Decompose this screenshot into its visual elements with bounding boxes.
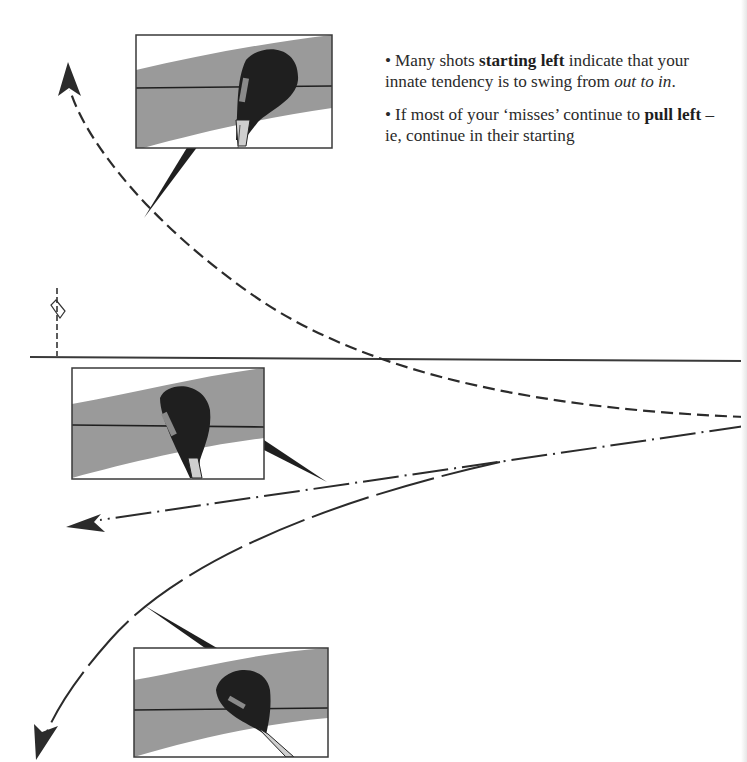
book-page: •Many shots starting left indicate that … [0,0,747,762]
pointer-wedge-middle [264,440,327,482]
paragraph-starting-left: •Many shots starting left indicate that … [385,50,715,92]
clubface-inset-bottom [134,648,328,757]
arrowhead-up-icon [58,62,81,96]
explanation-text: •Many shots starting left indicate that … [385,50,715,158]
emphasis-pull-left: pull left [644,105,701,124]
arrowhead-down-icon [34,724,58,760]
paragraph-pull-left: •If most of your ‘misses’ continue to pu… [385,104,715,146]
pointer-wedge-bottom [145,606,217,648]
clubface-inset-middle [72,368,264,479]
page-edge-shadow [741,0,747,762]
pin-flag-icon [51,288,65,356]
pointer-wedge-top [144,146,198,218]
arrowhead-left-icon [66,514,105,532]
bullet: • [385,105,391,124]
emphasis-starting-left: starting left [479,51,564,70]
bullet: • [385,51,391,70]
clubface-inset-top [136,35,332,150]
emphasis-out-to-in: out to in [614,72,671,91]
